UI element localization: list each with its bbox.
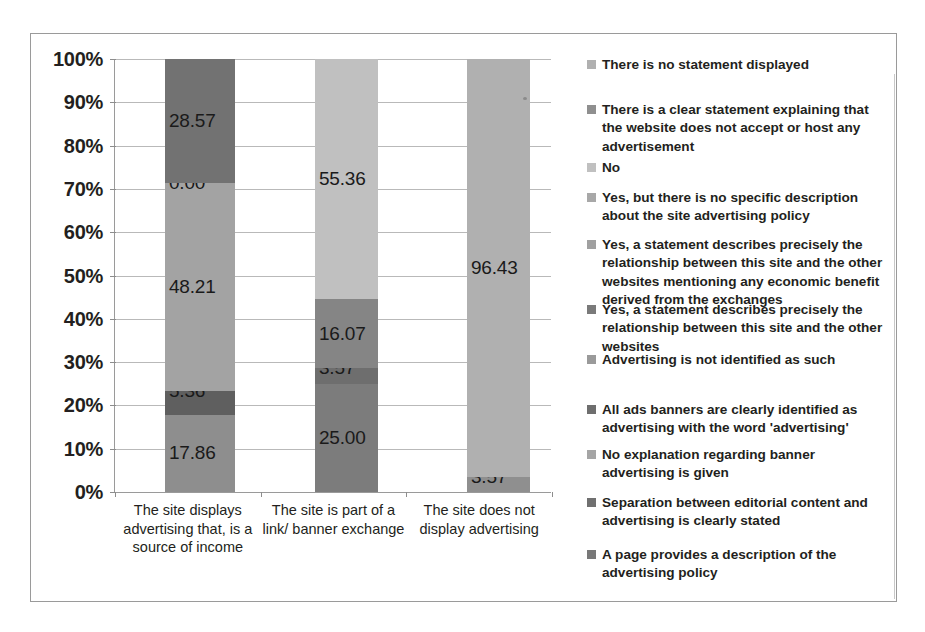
plot-area: 0%10%20%30%40%50%60%70%80%90%100% 17.865… bbox=[114, 59, 551, 493]
y-axis-tick-label: 20% bbox=[64, 394, 103, 417]
legend-item[interactable]: Yes, a statement describes precisely the… bbox=[587, 236, 887, 310]
legend-item-label: Advertising is not identified as such bbox=[602, 351, 835, 369]
chart-frame: 0%10%20%30%40%50%60%70%80%90%100% 17.865… bbox=[30, 33, 897, 602]
y-axis-tick bbox=[110, 189, 116, 190]
legend-item-label: A page provides a description of the adv… bbox=[602, 546, 887, 583]
y-axis-tick-label: 90% bbox=[64, 91, 103, 114]
legend-color-swatch-icon bbox=[587, 355, 596, 364]
y-axis-tick-label: 50% bbox=[64, 264, 103, 287]
x-axis-category-label: The site does not display advertising bbox=[406, 501, 552, 538]
bar-segment-value-label: 28.57 bbox=[169, 110, 216, 132]
y-axis-tick-label: 10% bbox=[64, 437, 103, 460]
y-axis-tick-label: 30% bbox=[64, 351, 103, 374]
legend-item[interactable]: Yes, but there is no specific descriptio… bbox=[587, 189, 887, 226]
legend-item-label: There is a clear statement explaining th… bbox=[602, 101, 887, 156]
x-axis-tick bbox=[261, 492, 262, 497]
bar-column[interactable]: 25.003.5716.0755.36 bbox=[315, 59, 378, 492]
bar-segment[interactable]: 55.36 bbox=[315, 59, 378, 299]
legend-color-swatch-icon bbox=[587, 550, 596, 559]
y-axis-tick bbox=[110, 405, 116, 406]
bar-segment[interactable]: 25.00 bbox=[315, 384, 378, 492]
legend-item-label: Yes, a statement describes precisely the… bbox=[602, 236, 887, 310]
legend-color-swatch-icon bbox=[587, 193, 596, 202]
bar-segment[interactable]: 48.21 bbox=[165, 183, 235, 392]
legend-color-swatch-icon bbox=[587, 498, 596, 507]
legend-item-label: No explanation regarding banner advertis… bbox=[602, 446, 887, 483]
y-axis-tick bbox=[110, 362, 116, 363]
y-axis-tick-label: 70% bbox=[64, 177, 103, 200]
y-axis-tick bbox=[110, 102, 116, 103]
y-axis-tick-label: 40% bbox=[64, 307, 103, 330]
legend-item[interactable]: Advertising is not identified as such bbox=[587, 351, 887, 369]
bar-segment[interactable]: 16.07 bbox=[315, 299, 378, 369]
legend-item[interactable]: All ads banners are clearly identified a… bbox=[587, 401, 887, 438]
bar-segment-value-label: 96.43 bbox=[471, 257, 518, 279]
bar-segment-value-label: 48.21 bbox=[169, 276, 216, 298]
legend-item[interactable]: There is no statement displayed bbox=[587, 56, 887, 74]
y-axis-tick bbox=[110, 276, 116, 277]
scan-speck bbox=[523, 97, 527, 100]
x-axis-tick bbox=[406, 492, 407, 497]
legend-item-label: There is no statement displayed bbox=[602, 56, 809, 74]
bar-segment-value-label: 25.00 bbox=[319, 427, 366, 449]
legend-divider bbox=[894, 74, 895, 599]
y-axis-tick bbox=[110, 449, 116, 450]
legend-item-label: Yes, but there is no specific descriptio… bbox=[602, 189, 887, 226]
y-axis-tick-label: 60% bbox=[64, 221, 103, 244]
legend-color-swatch-icon bbox=[587, 305, 596, 314]
x-axis-tick bbox=[115, 492, 116, 497]
y-axis-tick-label: 0% bbox=[75, 481, 103, 504]
x-axis-category-label: The site is part of a link/ banner excha… bbox=[261, 501, 407, 538]
y-axis-tick-label: 100% bbox=[53, 48, 103, 71]
bar-column[interactable]: 17.865.3648.210.0028.57 bbox=[165, 59, 235, 492]
bar-segment[interactable]: 3.57 bbox=[467, 477, 530, 492]
bar-column[interactable]: 3.5796.43 bbox=[467, 59, 530, 492]
y-axis-tick bbox=[110, 232, 116, 233]
bar-segment-value-label: 16.07 bbox=[319, 323, 366, 345]
legend-color-swatch-icon bbox=[587, 163, 596, 172]
legend-item-label: Yes, a statement describes precisely the… bbox=[602, 301, 887, 356]
bar-segment[interactable]: 3.57 bbox=[315, 368, 378, 383]
legend-item-label: Separation between editorial content and… bbox=[602, 494, 887, 531]
bar-segment-value-label: 17.86 bbox=[169, 442, 216, 464]
legend-item[interactable]: Separation between editorial content and… bbox=[587, 494, 887, 531]
legend-item[interactable]: Yes, a statement describes precisely the… bbox=[587, 301, 887, 356]
legend-item-label: All ads banners are clearly identified a… bbox=[602, 401, 887, 438]
y-axis-tick bbox=[110, 146, 116, 147]
legend-item[interactable]: There is a clear statement explaining th… bbox=[587, 101, 887, 156]
legend-color-swatch-icon bbox=[587, 450, 596, 459]
y-axis-tick bbox=[110, 319, 116, 320]
bar-segment[interactable]: 96.43 bbox=[467, 59, 530, 477]
bar-segment[interactable]: 28.57 bbox=[165, 59, 235, 183]
y-axis-tick bbox=[110, 59, 116, 60]
legend-item[interactable]: No bbox=[587, 159, 887, 177]
legend-item[interactable]: No explanation regarding banner advertis… bbox=[587, 446, 887, 483]
bar-segment[interactable]: 17.86 bbox=[165, 415, 235, 492]
legend-color-swatch-icon bbox=[587, 60, 596, 69]
x-axis-tick bbox=[552, 492, 553, 497]
bar-segment-value-label: 55.36 bbox=[319, 168, 366, 190]
legend-color-swatch-icon bbox=[587, 105, 596, 114]
legend-item[interactable]: A page provides a description of the adv… bbox=[587, 546, 887, 583]
legend-item-label: No bbox=[602, 159, 620, 177]
bar-segment[interactable]: 5.36 bbox=[165, 391, 235, 414]
legend-color-swatch-icon bbox=[587, 405, 596, 414]
legend-color-swatch-icon bbox=[587, 240, 596, 249]
y-axis-tick-label: 80% bbox=[64, 134, 103, 157]
x-axis-category-label: The site displays advertising that, is a… bbox=[115, 501, 261, 557]
